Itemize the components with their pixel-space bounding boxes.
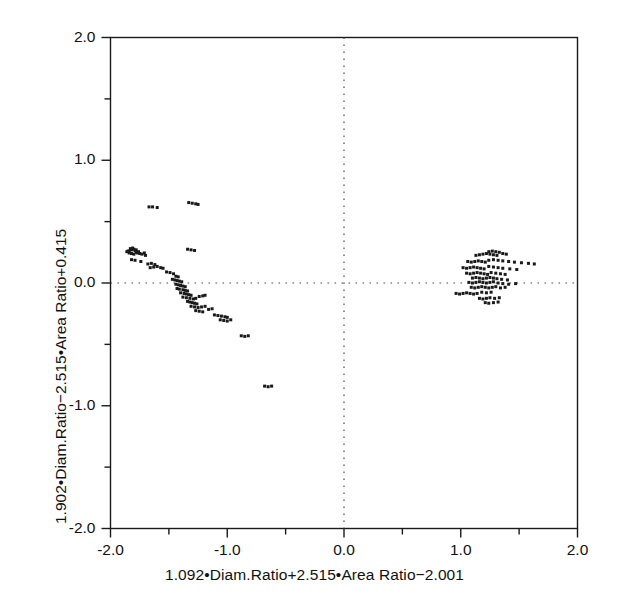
data-point: [480, 285, 483, 288]
data-point: [186, 289, 189, 292]
data-point: [488, 281, 491, 284]
data-point: [204, 294, 207, 297]
data-point: [485, 297, 488, 300]
data-point: [177, 275, 180, 278]
data-point: [493, 297, 496, 300]
data-point: [497, 259, 500, 262]
data-point: [478, 277, 481, 280]
data-point: [527, 262, 530, 265]
data-point: [219, 318, 222, 321]
data-point: [472, 266, 475, 269]
data-point: [243, 335, 246, 338]
data-point: [476, 271, 479, 274]
data-point: [507, 283, 510, 286]
data-point: [229, 318, 232, 321]
scatter-plot-figure: [0, 0, 629, 607]
data-point: [492, 258, 495, 261]
data-point: [513, 261, 516, 264]
data-point: [490, 291, 493, 294]
data-point: [194, 309, 197, 312]
y-tick-label: -2.0: [40, 519, 96, 537]
data-point: [134, 259, 137, 262]
data-point: [263, 385, 266, 388]
data-point: [465, 291, 468, 294]
data-point: [185, 296, 188, 299]
data-point: [499, 272, 502, 275]
data-point: [204, 305, 207, 308]
data-point: [504, 286, 507, 289]
data-point: [455, 292, 458, 295]
x-axis-label: 1.092•Diam.Ratio+2.515•Area Ratio−2.001: [0, 566, 629, 584]
data-point: [492, 301, 495, 304]
data-point: [267, 385, 270, 388]
data-point: [485, 277, 488, 280]
data-point: [501, 282, 504, 285]
data-point: [481, 253, 484, 256]
data-point: [494, 272, 497, 275]
data-point: [190, 294, 193, 297]
data-point: [483, 272, 486, 275]
data-point: [193, 305, 196, 308]
data-point: [479, 267, 482, 270]
data-point: [190, 248, 193, 251]
data-point: [501, 267, 504, 270]
data-point: [270, 385, 273, 388]
x-tick-label: 2.0: [548, 541, 608, 559]
data-point: [474, 281, 477, 284]
data-point: [188, 297, 191, 300]
data-point: [476, 292, 479, 295]
x-tick-label: -2.0: [81, 541, 141, 559]
data-point: [486, 273, 489, 276]
y-tick-label: 2.0: [40, 28, 96, 46]
data-point: [487, 302, 490, 305]
data-point: [505, 253, 508, 256]
data-point: [492, 253, 495, 256]
data-point: [130, 258, 133, 261]
data-point: [193, 249, 196, 252]
data-point: [198, 310, 201, 313]
data-point: [508, 267, 511, 270]
data-point: [470, 286, 473, 289]
data-point: [139, 260, 142, 263]
data-point: [478, 280, 481, 283]
data-point: [504, 273, 507, 276]
data-point: [146, 262, 149, 265]
data-point: [497, 282, 500, 285]
data-point: [487, 259, 490, 262]
data-point: [492, 266, 495, 269]
data-point: [178, 288, 181, 291]
data-point: [471, 282, 474, 285]
data-point: [494, 250, 497, 253]
data-point: [197, 306, 200, 309]
data-point: [476, 266, 479, 269]
data-point: [478, 297, 481, 300]
data-point: [474, 276, 477, 279]
data-point: [497, 301, 500, 304]
data-point: [165, 270, 168, 273]
data-point: [465, 272, 468, 275]
data-point: [480, 291, 483, 294]
data-point: [501, 252, 504, 255]
data-point: [247, 334, 250, 337]
data-point: [226, 316, 229, 319]
data-point: [466, 260, 469, 263]
data-point: [152, 266, 155, 269]
data-point: [473, 260, 476, 263]
data-point: [184, 285, 187, 288]
data-point: [485, 291, 488, 294]
data-point: [469, 266, 472, 269]
data-point: [150, 262, 153, 265]
data-point: [191, 202, 194, 205]
data-point: [474, 254, 477, 257]
data-point: [481, 281, 484, 284]
data-point: [478, 253, 481, 256]
data-point: [162, 267, 165, 270]
data-point: [471, 277, 474, 280]
data-point: [495, 277, 498, 280]
data-point: [483, 267, 486, 270]
data-point: [470, 261, 473, 264]
data-point: [477, 286, 480, 289]
data-point: [515, 268, 518, 271]
y-tick-label: 0.0: [40, 273, 96, 291]
x-tick-label: -1.0: [197, 541, 257, 559]
